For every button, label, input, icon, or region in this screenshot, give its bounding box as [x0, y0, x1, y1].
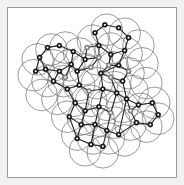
- atom: [120, 79, 125, 84]
- atom: [33, 69, 38, 74]
- atom-core: [74, 102, 76, 104]
- atom: [57, 43, 62, 48]
- atom: [73, 100, 78, 105]
- atom: [65, 86, 70, 91]
- atom: [124, 96, 129, 101]
- atom: [108, 75, 113, 80]
- atom: [150, 100, 155, 105]
- atom-core: [94, 124, 96, 126]
- atom-core: [72, 50, 74, 52]
- molecule-diagram: [8, 8, 176, 177]
- atom-core: [35, 70, 37, 72]
- atom-core: [58, 45, 60, 47]
- atom-core: [84, 58, 86, 60]
- atom: [100, 86, 105, 91]
- atom: [77, 83, 82, 88]
- atom-core: [64, 76, 66, 78]
- atom-core: [118, 27, 120, 29]
- atom-core: [45, 68, 47, 70]
- atom-core: [70, 63, 72, 65]
- atom: [116, 63, 121, 68]
- atom-core: [116, 92, 118, 94]
- atom: [126, 69, 131, 74]
- atom-core: [102, 145, 104, 147]
- vdw-sphere: [81, 67, 113, 99]
- atom-core: [102, 88, 104, 90]
- atom-core: [66, 88, 68, 90]
- atom: [37, 55, 42, 60]
- atom-core: [135, 122, 137, 124]
- atom: [69, 62, 74, 67]
- atom: [84, 45, 89, 50]
- atom-core: [122, 80, 124, 82]
- atom-core: [126, 98, 128, 100]
- atom: [116, 132, 121, 137]
- atom-core: [118, 133, 120, 135]
- vdw-sphere: [63, 38, 95, 70]
- atom: [57, 69, 62, 74]
- atom-core: [78, 84, 80, 86]
- atom-core: [100, 72, 102, 74]
- atom: [71, 49, 76, 54]
- atom-core: [76, 137, 78, 139]
- atom: [128, 108, 133, 113]
- atom-core: [90, 66, 92, 68]
- atom-core: [108, 64, 110, 66]
- atom: [96, 104, 101, 109]
- atom-core: [149, 124, 151, 126]
- atom-core: [76, 70, 78, 72]
- atom-core: [98, 45, 100, 47]
- atom: [45, 45, 50, 50]
- atom: [134, 120, 139, 125]
- atom-core: [84, 110, 86, 112]
- atom-core: [98, 106, 100, 108]
- atom: [104, 128, 109, 133]
- atom-core: [157, 114, 159, 116]
- atom: [75, 69, 80, 74]
- atom: [108, 52, 113, 57]
- atom: [114, 90, 119, 95]
- atom-core: [130, 110, 132, 112]
- atom: [100, 144, 105, 149]
- atom: [75, 136, 80, 141]
- vdw-sphere: [18, 59, 50, 91]
- atom-core: [46, 46, 48, 48]
- atom: [122, 48, 127, 53]
- atom-core: [110, 112, 112, 114]
- atom: [96, 43, 101, 48]
- atom: [51, 79, 56, 84]
- atom-core: [68, 116, 70, 118]
- atom-core: [128, 37, 130, 39]
- atom-core: [151, 102, 153, 104]
- atom: [88, 142, 93, 147]
- atom-core: [137, 104, 139, 106]
- atom-core: [110, 76, 112, 78]
- atom: [148, 122, 153, 127]
- atom: [63, 75, 68, 80]
- atom-core: [52, 80, 54, 82]
- atom-core: [110, 53, 112, 55]
- atom-core: [98, 56, 100, 58]
- atom: [116, 25, 121, 30]
- atom: [79, 122, 84, 127]
- atom-core: [39, 56, 41, 58]
- atom-core: [58, 70, 60, 72]
- atom: [83, 57, 88, 62]
- atom-core: [86, 46, 88, 48]
- atom: [126, 35, 131, 40]
- atom: [92, 122, 97, 127]
- vdw-sphere: [142, 103, 174, 135]
- atom: [106, 63, 111, 68]
- atom: [67, 114, 72, 119]
- atom: [43, 67, 48, 72]
- atom: [83, 108, 88, 113]
- vdw-sphere: [123, 30, 155, 62]
- atom: [136, 102, 141, 107]
- atom-core: [88, 90, 90, 92]
- atom: [108, 110, 113, 115]
- atom: [96, 55, 101, 60]
- atom: [156, 112, 161, 117]
- atom: [86, 88, 91, 93]
- atom-core: [106, 130, 108, 132]
- atom-core: [118, 64, 120, 66]
